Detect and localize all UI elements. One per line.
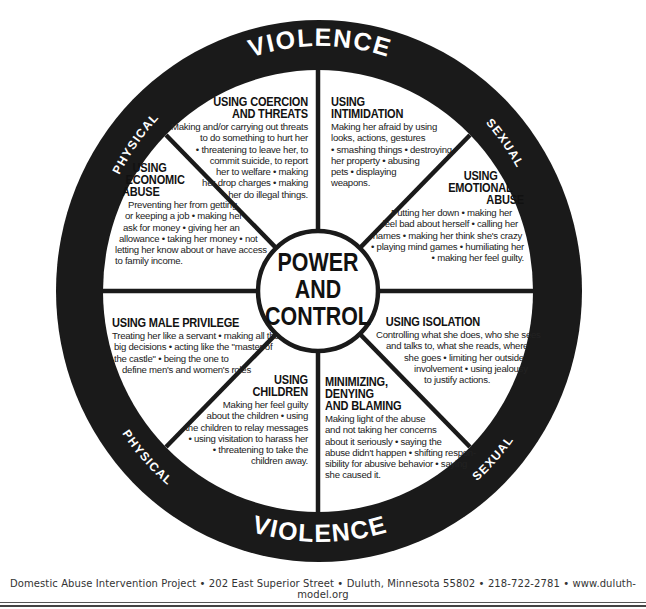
body-line: and talks to, what she reads, where bbox=[384, 340, 534, 351]
body-line: • playing mind games • humiliating her bbox=[370, 241, 524, 252]
power-control-wheel: POWER AND CONTROL PHYSICAL VIOLENCE SEXU… bbox=[0, 0, 646, 609]
body-line: • threatening to leave her, to bbox=[160, 144, 308, 155]
section-minimizing-denying-blaming: MINIMIZING, DENYING AND BLAMING Making l… bbox=[325, 376, 465, 481]
section-body: Making her feel guilty about the childre… bbox=[160, 399, 308, 467]
section-emotional-abuse: USING EMOTIONAL ABUSE Putting her down •… bbox=[370, 170, 524, 263]
hub-line-3: CONTROL bbox=[265, 302, 371, 330]
body-line: Controlling what she does, who she sees bbox=[376, 329, 534, 340]
body-line: children away. bbox=[160, 455, 308, 466]
body-line: Preventing her from getting bbox=[115, 199, 265, 210]
title-line: USING ISOLATION bbox=[384, 316, 516, 328]
body-line: Making her afraid by using bbox=[331, 121, 461, 132]
body-line: sibility for abusive behavior • saying bbox=[325, 458, 465, 469]
section-body: Treating her like a servant • making all… bbox=[112, 330, 262, 375]
section-title: MINIMIZING, DENYING AND BLAMING bbox=[325, 376, 448, 412]
body-line: • making her feel guilty. bbox=[370, 252, 524, 263]
body-line: ask for money • giving her an bbox=[115, 222, 265, 233]
body-line: Making light of the abuse bbox=[325, 413, 465, 424]
section-title: USING ECONOMIC ABUSE bbox=[115, 162, 247, 198]
section-body: Making light of the abuse and not taking… bbox=[325, 413, 465, 481]
body-line: the castle" • being the one to bbox=[112, 353, 262, 364]
section-body: Preventing her from getting or keeping a… bbox=[115, 199, 265, 267]
section-male-privilege: USING MALE PRIVILEGE Treating her like a… bbox=[112, 317, 262, 375]
section-body: Putting her down • making her feel bad a… bbox=[370, 207, 524, 263]
section-title: USING CHILDREN bbox=[178, 374, 308, 398]
footer-contact: Domestic Abuse Intervention Project • 20… bbox=[0, 578, 646, 600]
footer-rule bbox=[0, 602, 646, 603]
body-line: looks, actions, gestures bbox=[331, 132, 461, 143]
body-line: • smashing things • destroying bbox=[331, 144, 461, 155]
section-children: USING CHILDREN Making her feel guilty ab… bbox=[160, 374, 308, 467]
section-title: USING ISOLATION bbox=[384, 316, 516, 328]
section-title: USING MALE PRIVILEGE bbox=[112, 317, 244, 329]
body-line: • threatening to take the bbox=[160, 444, 308, 455]
title-line: USING MALE PRIVILEGE bbox=[112, 317, 244, 329]
body-line: feel bad about herself • calling her bbox=[370, 218, 524, 229]
hub-line-2: AND bbox=[295, 275, 341, 303]
body-line: or keeping a job • making her bbox=[115, 210, 265, 221]
body-line: about it seriously • saying the bbox=[325, 436, 465, 447]
section-title: USING EMOTIONAL ABUSE bbox=[388, 170, 524, 206]
body-line: big decisions • acting like the "master … bbox=[112, 341, 262, 352]
body-line: names • making her think she's crazy bbox=[370, 230, 524, 241]
body-line: Treating her like a servant • making all… bbox=[112, 330, 262, 341]
section-economic-abuse: USING ECONOMIC ABUSE Preventing her from… bbox=[115, 162, 265, 267]
body-line: about the children • using bbox=[160, 410, 308, 421]
body-line: Putting her down • making her bbox=[370, 207, 524, 218]
title-line: AND THREATS bbox=[178, 108, 308, 120]
title-line: ABUSE bbox=[115, 186, 247, 198]
body-line: Making and/or carrying out threats bbox=[160, 121, 308, 132]
title-line: INTIMIDATION bbox=[331, 108, 445, 120]
body-line: define men's and women's roles bbox=[112, 364, 262, 375]
body-line: • using visitation to harass her bbox=[160, 433, 308, 444]
body-line: to do something to hurt her bbox=[160, 132, 308, 143]
section-title: USING COERCION AND THREATS bbox=[178, 96, 308, 120]
body-line: she caused it. bbox=[325, 469, 465, 480]
body-line: to family income. bbox=[115, 255, 265, 266]
title-line: ABUSE bbox=[388, 194, 524, 206]
body-line: allowance • taking her money • not bbox=[115, 233, 265, 244]
title-line: CHILDREN bbox=[178, 386, 308, 398]
body-line: the children to relay messages bbox=[160, 422, 308, 433]
section-title: USING INTIMIDATION bbox=[331, 96, 445, 120]
hub-line-1: POWER bbox=[278, 248, 359, 276]
body-line: letting her know about or have access bbox=[115, 244, 265, 255]
title-line: AND BLAMING bbox=[325, 400, 448, 412]
body-line: Making her feel guilty bbox=[160, 399, 308, 410]
body-line: her property • abusing bbox=[331, 155, 461, 166]
body-line: involvement • using jealousy bbox=[384, 363, 534, 374]
body-line: abuse didn't happen • shifting respon- bbox=[325, 447, 465, 458]
footer-rule bbox=[0, 605, 646, 607]
body-line: she goes • limiting her outside bbox=[384, 352, 534, 363]
body-line: and not taking her concerns bbox=[325, 424, 465, 435]
